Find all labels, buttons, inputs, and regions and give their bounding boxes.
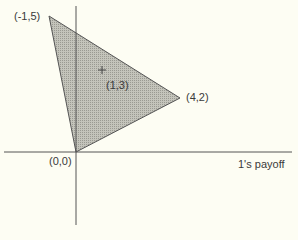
payoff-diagram [0,0,298,240]
interior-point-label: (1,3) [106,79,129,91]
vertex-label-top-left: (-1,5) [14,10,40,22]
vertex-label-right: (4,2) [186,91,209,103]
x-axis-label: 1's payoff [238,158,285,170]
vertex-label-origin: (0,0) [49,155,72,167]
